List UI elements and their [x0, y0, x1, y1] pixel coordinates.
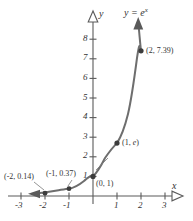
- data-point: [67, 186, 72, 191]
- point-label-neg1: (-1, 0.37): [46, 170, 76, 178]
- y-tick-label: 1: [83, 171, 88, 180]
- data-point: [90, 174, 95, 179]
- data-point: [138, 48, 143, 53]
- x-tick-label: -1: [63, 201, 71, 210]
- curve-left-arrowhead-icon: [28, 190, 40, 198]
- function-label-base: y = e: [124, 7, 145, 18]
- point-label-zero: (0, 1): [96, 180, 113, 188]
- point-label-two: (2, 7.39): [146, 47, 173, 55]
- point-label-neg2: (-2, 0.14): [4, 173, 34, 181]
- y-tick-label: 3: [83, 132, 88, 141]
- y-tick-label: 8: [83, 34, 88, 43]
- exponential-function-graph: y x y = ex -3 -2 -1 1 2 3 1 2 3 4 5 6 7 …: [0, 0, 193, 221]
- y-tick-label: 6: [83, 73, 88, 82]
- y-tick-label: 2: [83, 151, 88, 160]
- point-label-one: (1, e): [122, 139, 139, 147]
- y-tick-label: 5: [83, 93, 88, 102]
- x-axis-label: x: [172, 181, 176, 191]
- data-point: [114, 141, 119, 146]
- y-tick-label: 7: [83, 53, 88, 62]
- data-point: [43, 191, 48, 196]
- point-label-one-post: ): [136, 138, 139, 147]
- x-tick-label: 2: [138, 201, 143, 210]
- x-tick-label: 3: [162, 201, 167, 210]
- x-tick-label: 1: [114, 201, 119, 210]
- function-label: y = ex: [124, 7, 148, 18]
- function-label-exponent: x: [145, 6, 148, 14]
- point-label-one-pre: (1,: [122, 138, 133, 147]
- x-axis-arrowhead-icon: [172, 191, 183, 201]
- y-tick-label: 4: [83, 112, 88, 121]
- x-tick-label: -2: [39, 201, 47, 210]
- y-axis-arrowhead-icon: [88, 11, 98, 22]
- x-tick-label: -3: [15, 201, 23, 210]
- curve-up-arrowhead-icon: [133, 17, 143, 30]
- y-axis-label: y: [99, 9, 103, 19]
